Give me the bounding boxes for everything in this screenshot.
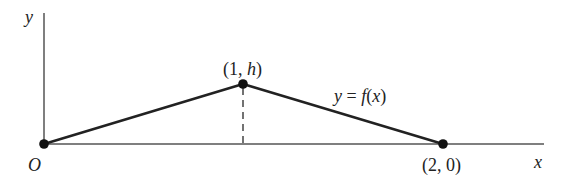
function-graph: y O x (1, h) (2, 0) y = f(x) — [0, 0, 572, 181]
curve-label: y = f(x) — [332, 86, 386, 107]
origin-label: O — [28, 155, 41, 175]
y-axis-label: y — [23, 7, 33, 27]
peak-label: (1, h) — [223, 59, 262, 80]
x-axis-label: x — [533, 152, 542, 172]
origin-point — [39, 139, 49, 149]
end-point — [438, 139, 448, 149]
peak-point — [238, 79, 248, 89]
end-point-label: (2, 0) — [422, 155, 461, 176]
